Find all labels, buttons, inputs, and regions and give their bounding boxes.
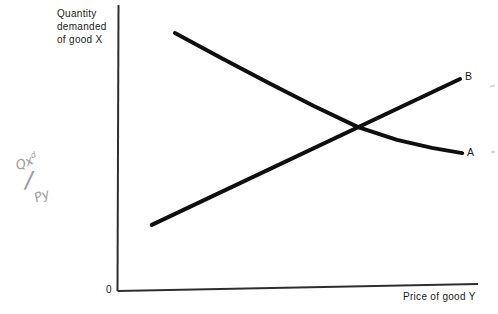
y-axis-label: Quantity demanded of good X bbox=[57, 7, 107, 46]
x-axis-line bbox=[118, 284, 479, 291]
curve-a-label: A bbox=[467, 146, 474, 158]
handwritten-annotation: Qxd / Py bbox=[8, 146, 70, 216]
curve-b-label: B bbox=[465, 70, 472, 82]
x-axis-label: Price of good Y bbox=[403, 291, 476, 302]
y-axis-label-line1: Quantity bbox=[57, 7, 107, 20]
y-axis-label-line2: demanded bbox=[57, 20, 107, 33]
handwritten-denominator: Py bbox=[32, 186, 52, 206]
y-axis-label-line3: of good X bbox=[57, 33, 107, 46]
economics-demand-figure: Quantity demanded of good X Price of goo… bbox=[0, 0, 498, 314]
y-axis-line bbox=[118, 5, 119, 291]
origin-label: 0 bbox=[106, 284, 112, 295]
curve-a bbox=[175, 33, 462, 153]
plot-canvas bbox=[0, 0, 498, 314]
